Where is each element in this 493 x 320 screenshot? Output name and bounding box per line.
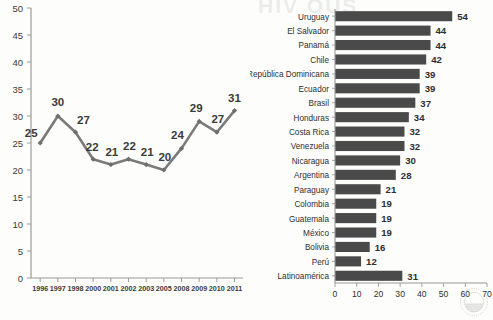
line-chart-x-tick-label: 2003 bbox=[138, 284, 154, 293]
bar-chart-x-tick-label: 10 bbox=[352, 289, 362, 299]
line-chart-data-label: 31 bbox=[228, 92, 241, 104]
bar-chart-bar bbox=[335, 184, 381, 194]
bar-chart-bar bbox=[335, 26, 431, 36]
line-chart-x-tick-label: 2011 bbox=[227, 284, 243, 293]
circular-seal-logo-icon bbox=[459, 287, 489, 317]
bar-chart-category-label: Brasil bbox=[309, 99, 330, 108]
bar-chart-x-tick-label: 30 bbox=[395, 289, 405, 299]
bar-chart-bar bbox=[335, 213, 376, 223]
bar-chart-bar bbox=[335, 98, 415, 108]
bar-chart-bar bbox=[335, 11, 452, 21]
line-chart-data-label: 25 bbox=[25, 127, 38, 139]
bar-chart-bar bbox=[335, 69, 420, 79]
bar-chart-data-label: 44 bbox=[436, 40, 447, 51]
line-chart-data-label: 27 bbox=[77, 114, 90, 126]
bar-chart-data-label: 31 bbox=[407, 271, 418, 282]
line-chart-x-tick-label: 2005 bbox=[156, 284, 172, 293]
bar-chart-data-label: 19 bbox=[381, 198, 392, 209]
line-chart-x-tick-label: 2009 bbox=[191, 284, 207, 293]
line-chart-data-label: 27 bbox=[211, 113, 224, 125]
line-chart-x-tick-label: 2000 bbox=[85, 284, 101, 293]
bar-chart-data-label: 12 bbox=[366, 256, 377, 267]
bar-chart-data-label: 28 bbox=[401, 170, 412, 181]
bar-chart-bar bbox=[335, 83, 420, 93]
bar-chart-bar bbox=[335, 242, 370, 252]
bar-chart-data-label: 30 bbox=[405, 155, 416, 166]
bar-chart-bars bbox=[335, 11, 452, 281]
figure-canvas: HIV OUS 05101520253035404550 19961997199… bbox=[0, 0, 493, 320]
bar-chart-x-tick-label: 0 bbox=[333, 289, 338, 299]
bar-chart-bar bbox=[335, 170, 396, 180]
bar-chart: UruguayEl SalvadorPanamáChileRepública D… bbox=[250, 0, 493, 320]
bar-chart-bar bbox=[335, 256, 361, 266]
line-chart-y-tick-label: 50 bbox=[12, 3, 23, 14]
line-chart-y-tick-label: 25 bbox=[12, 138, 23, 149]
bar-chart-bar bbox=[335, 227, 376, 237]
line-chart-x-axis: 1996199719982000200120022003200520082009… bbox=[32, 278, 242, 293]
bar-chart-bar bbox=[335, 127, 404, 137]
bar-chart-category-label: Ecuador bbox=[299, 85, 330, 94]
bar-chart-category-label: El Salvador bbox=[287, 27, 329, 36]
line-chart-y-axis: 05101520253035404550 bbox=[12, 3, 31, 284]
line-chart-series-path bbox=[40, 111, 234, 170]
bar-chart-category-label: Latinoamérica bbox=[278, 272, 330, 281]
line-chart-y-tick-label: 35 bbox=[12, 84, 23, 95]
bar-chart-category-label: Colombia bbox=[294, 200, 329, 209]
bar-chart-svg: UruguayEl SalvadorPanamáChileRepública D… bbox=[250, 0, 493, 320]
line-chart-x-tick-label: 2008 bbox=[174, 284, 190, 293]
line-chart-data-label: 21 bbox=[105, 146, 118, 158]
bar-chart-category-label: Uruguay bbox=[298, 13, 330, 22]
bar-chart-x-tick-label: 50 bbox=[439, 289, 449, 299]
bar-chart-category-label: Argentina bbox=[294, 171, 329, 180]
line-chart-y-tick-label: 40 bbox=[12, 57, 23, 68]
bar-chart-data-label: 42 bbox=[431, 54, 442, 65]
line-chart-data-label: 20 bbox=[158, 151, 171, 163]
bar-chart-data-label: 44 bbox=[436, 25, 447, 36]
line-chart-y-tick-label: 45 bbox=[12, 30, 23, 41]
bar-chart-data-label: 37 bbox=[420, 98, 431, 109]
line-chart-x-tick-label: 2001 bbox=[103, 284, 119, 293]
line-chart-data-label: 24 bbox=[171, 129, 184, 141]
bar-chart-category-label: Honduras bbox=[293, 114, 329, 123]
line-chart-x-tick-label: 1996 bbox=[32, 284, 48, 293]
bar-chart-bar bbox=[335, 271, 402, 281]
bar-chart-category-label: Costa Rica bbox=[289, 128, 329, 137]
line-chart-svg: 05101520253035404550 1996199719982000200… bbox=[0, 0, 250, 320]
bar-chart-x-tick-label: 20 bbox=[374, 289, 384, 299]
bar-chart-bar bbox=[335, 112, 409, 122]
bar-chart-category-label: Paraguay bbox=[294, 186, 330, 195]
bar-chart-category-labels: UruguayEl SalvadorPanamáChileRepública D… bbox=[250, 13, 335, 282]
bar-chart-category-label: Guatemala bbox=[289, 215, 329, 224]
bar-chart-bar bbox=[335, 54, 426, 64]
bar-chart-category-label: Chile bbox=[310, 56, 329, 65]
bar-chart-data-label: 39 bbox=[425, 69, 436, 80]
line-chart-data-label: 21 bbox=[141, 146, 154, 158]
bar-chart-data-label: 16 bbox=[375, 242, 386, 253]
line-chart-x-tick-label: 2010 bbox=[209, 284, 225, 293]
bar-chart-bar bbox=[335, 40, 431, 50]
line-chart-y-tick-label: 5 bbox=[18, 246, 23, 257]
bar-chart-data-label: 32 bbox=[409, 141, 420, 152]
bar-chart-data-label: 19 bbox=[381, 213, 392, 224]
bar-chart-bar bbox=[335, 199, 376, 209]
line-chart-data-label: 22 bbox=[86, 141, 99, 153]
bar-chart-data-label: 19 bbox=[381, 227, 392, 238]
bar-chart-category-label: República Dominicana bbox=[250, 70, 329, 79]
line-chart-y-tick-label: 15 bbox=[12, 192, 23, 203]
bar-chart-data-label: 32 bbox=[409, 126, 420, 137]
bar-chart-data-label: 39 bbox=[425, 83, 436, 94]
line-chart-y-tick-label: 20 bbox=[12, 165, 23, 176]
bar-chart-category-label: Nicaragua bbox=[292, 157, 330, 166]
line-chart-data-label: 22 bbox=[123, 140, 136, 152]
bar-chart-category-label: Venezuela bbox=[291, 142, 330, 151]
line-chart-y-tick-label: 10 bbox=[12, 219, 23, 230]
bar-chart-category-label: Bolivia bbox=[305, 243, 330, 252]
bar-chart-bar bbox=[335, 155, 400, 165]
bar-chart-category-label: México bbox=[303, 229, 329, 238]
line-chart-data-label: 30 bbox=[51, 96, 64, 108]
line-chart-y-tick-label: 0 bbox=[18, 273, 23, 284]
line-chart-x-tick-label: 1997 bbox=[50, 284, 66, 293]
line-chart-y-tick-label: 30 bbox=[12, 111, 23, 122]
line-chart: 05101520253035404550 1996199719982000200… bbox=[0, 0, 250, 320]
bar-chart-bar bbox=[335, 141, 404, 151]
